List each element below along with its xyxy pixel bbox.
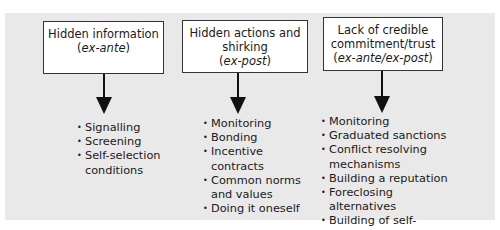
box-qualifier: ex-post	[224, 54, 267, 68]
box-title-line: shirking	[183, 40, 307, 54]
box-title-line: Hidden actions and	[183, 26, 307, 40]
list-item: Signalling	[77, 121, 167, 135]
remedies-list-lack-of-commitment: Monitoring Graduated sanctions Conflict …	[321, 115, 451, 230]
list-item: Monitoring	[321, 115, 451, 129]
list-item: Doing it oneself	[203, 202, 308, 216]
list-item: Common norms and values	[203, 174, 308, 202]
box-qualifier: ex-ante	[82, 41, 126, 55]
arrow-down-icon	[96, 97, 112, 114]
box-title-line: commitment/trust	[324, 37, 442, 51]
box-title-line: Lack of credible	[324, 23, 442, 37]
arrow-shaft	[237, 73, 239, 100]
list-item: Graduated sanctions	[321, 129, 451, 143]
arrow-shaft	[381, 71, 383, 99]
box-hidden-actions: Hidden actions and shirking (ex-post)	[182, 20, 308, 73]
list-item: Conflict resolving mechanisms	[321, 143, 451, 171]
arrow-down-icon	[374, 96, 390, 113]
list-item: Monitoring	[203, 117, 308, 131]
arrow-down-icon	[230, 97, 246, 114]
box-lack-of-commitment: Lack of credible commitment/trust (ex-an…	[323, 17, 443, 71]
list-item: Building of self-interest	[321, 214, 451, 230]
list-item: Screening	[77, 135, 167, 149]
box-title-line: Hidden information	[44, 27, 163, 41]
list-item: Bonding	[203, 131, 308, 145]
box-qualifier: ex-ante/ex-post	[338, 51, 429, 65]
list-item: Self-selection conditions	[77, 149, 167, 177]
list-item: Incentive contracts	[203, 145, 308, 173]
box-hidden-information: Hidden information (ex-ante)	[43, 21, 164, 74]
list-item: Foreclosing alternatives	[321, 186, 451, 214]
list-item: Building a reputation	[321, 172, 451, 186]
remedies-list-hidden-actions: Monitoring Bonding Incentive contracts C…	[203, 117, 308, 216]
remedies-list-hidden-information: Signalling Screening Self-selection cond…	[77, 121, 167, 178]
